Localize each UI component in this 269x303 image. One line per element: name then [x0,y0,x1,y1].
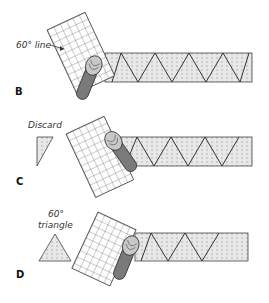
annotation-60-line: 60° line [16,40,52,50]
step-label-d: D [16,269,24,280]
step-label-b: B [15,86,23,97]
step-label-c: C [16,176,23,187]
cutting-diagram: 60° line B Discard C 60° triangle [0,0,269,303]
discard-triangle [37,137,53,166]
annotation-discard: Discard [28,120,62,130]
sixty-degree-triangle [39,234,71,261]
panel-c: Discard C [16,116,252,197]
panel-b: 60° line B [15,12,252,102]
panel-d: 60° triangle D [16,209,248,286]
annotation-triangle: triangle [38,220,73,230]
fabric-strip [135,233,248,261]
fabric-strip [105,53,252,82]
annotation-60-degree: 60° [48,209,64,219]
